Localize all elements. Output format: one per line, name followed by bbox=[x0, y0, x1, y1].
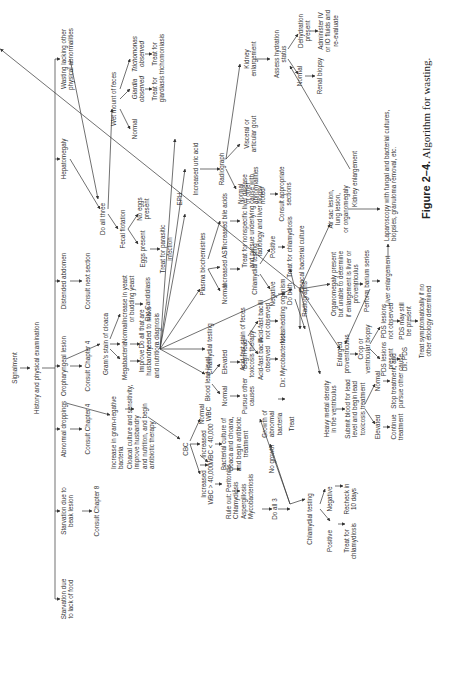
node-history: History and physical examination bbox=[33, 322, 40, 414]
node-eph: EPH bbox=[176, 193, 183, 206]
node-growth-abnormal: Growth of abnormal bacteria bbox=[261, 410, 283, 437]
node-lead-elevated: Elevated bbox=[374, 415, 381, 440]
node-wet-mount: Wet mount of feces bbox=[110, 72, 117, 126]
node-dx-pds: Dx: PDS bbox=[401, 347, 408, 371]
node-megabacteria: Megabacteria bbox=[121, 342, 128, 380]
node-rule-out: Rule out: Peritonitis Chlamydiosis Asper… bbox=[225, 464, 255, 519]
node-gram-stain: Gram's stain of cloaca bbox=[102, 313, 109, 375]
node-enlarged-prov: Enlarged proventriculus bbox=[336, 334, 351, 373]
node-radiograph-top: Radiograph bbox=[218, 153, 225, 186]
node-wbc-gt: Increased WBC > 40,000 bbox=[200, 463, 215, 504]
node-wbc-lt: Increased WBC < 40,000 bbox=[200, 423, 215, 464]
node-bl-normal: Normal bbox=[221, 386, 228, 406]
node-increased-uric: Increased uric acid bbox=[192, 143, 199, 196]
node-liver-enl: Liver enlargement bbox=[384, 256, 391, 306]
node-wbc-normal: Normal WBC bbox=[198, 404, 213, 424]
node-acid-fast: Acid-fast stain of feces bbox=[239, 307, 246, 370]
node-treat-symp: Treat symptomatically if no other etiolo… bbox=[418, 284, 433, 359]
node-laparoscopy: Laparoscopy with fungal and bacterial cu… bbox=[383, 110, 398, 241]
node-wm-normal: Normal bbox=[131, 119, 138, 139]
node-gram-normal: Normal bbox=[121, 323, 128, 343]
node-afb-observed: Acid-fast bacilli observed bbox=[257, 338, 272, 380]
node-treat-chlam-ast: Treat for chlamydiosis bbox=[286, 216, 293, 277]
node-continue-tx: Continue treatment bbox=[390, 414, 405, 441]
node-giardia: Giardia observed bbox=[131, 76, 146, 102]
node-treat-chlam-low: Treat for chlamydiosis bbox=[343, 523, 358, 559]
node-heavy-metal: Heavy metal density in the ventriculus bbox=[323, 381, 338, 438]
node-positive-low: Positive bbox=[326, 530, 333, 552]
node-renal-biopsy: Renal biopsy bbox=[316, 58, 323, 94]
node-increased-bile: Increased bile acids bbox=[221, 193, 228, 249]
node-assess-hydration: Assess hydration status bbox=[273, 30, 288, 78]
figure-title: Algorithm for wasting. bbox=[420, 58, 432, 159]
node-gram-neg: Increase in gram-negative bacteria bbox=[110, 396, 125, 469]
node-pds-still: PDS may still be present bbox=[398, 302, 413, 339]
node-treat-giardia: Treat for giardiasis bbox=[151, 76, 166, 103]
node-chlam-test-mid: Chlamydial testing bbox=[206, 323, 213, 374]
node-plasma-biochem: Plasma biochemistries bbox=[199, 233, 206, 296]
node-do-all-three: Do all three bbox=[99, 203, 106, 235]
node-chlam-test-low: Chlamydial testing bbox=[306, 493, 313, 544]
node-signalment: Signalment bbox=[11, 352, 18, 384]
node-do-both: Do both bbox=[286, 283, 293, 305]
node-wasting-other: Wasting lacking other physical abnormali… bbox=[60, 28, 75, 90]
node-no-growth: No growth bbox=[268, 445, 275, 474]
node-consult-sections: Consult appropriate sections bbox=[278, 167, 293, 222]
node-barium: Perform barium series bbox=[363, 250, 370, 312]
node-cbc: CBC bbox=[182, 442, 189, 455]
node-fecal-flotation: Fecal flotation bbox=[119, 209, 126, 248]
node-pursue-other: Pursue other causes bbox=[241, 378, 256, 414]
node-eggs: Eggs present bbox=[139, 230, 146, 267]
node-trichomonas: Trichomonas observed bbox=[131, 36, 146, 72]
node-do-all-3: Do all 3 bbox=[271, 498, 278, 519]
node-dehydration: Dehydration present bbox=[297, 14, 312, 48]
node-pds-present: PDS lesions present bbox=[380, 342, 395, 376]
node-increased-ast: Increased AST bbox=[221, 246, 228, 287]
node-treat-tricho: Treat for trichomoniasis bbox=[151, 34, 166, 74]
node-consult-ch4-a: Consult Chapter 4 bbox=[84, 404, 91, 455]
node-hepatomegaly: Hepatomegaly bbox=[60, 139, 67, 180]
node-crop-biopsy: Crop or ventricular biopsy bbox=[357, 325, 372, 374]
node-organomegaly: Organomegaly present but unable to deter… bbox=[330, 251, 360, 318]
node-recheck: Recheck in 10 days bbox=[343, 483, 358, 514]
node-oropharyngeal: Oropharyngeal lesion bbox=[60, 336, 67, 396]
node-pds-not: PDS lesions not observed bbox=[380, 303, 395, 339]
node-negative-ast: Negative bbox=[269, 282, 276, 307]
node-no-eggs: No eggs present bbox=[136, 197, 151, 220]
node-abnormal-droppings: Abnormal droppings bbox=[60, 401, 67, 457]
node-rad-normal: Normal or other abnormalities noted bbox=[237, 167, 267, 204]
node-starvation-beak: Starvation due to beak lesion bbox=[60, 487, 75, 535]
figure-label: Figure 2–4. bbox=[420, 161, 432, 219]
node-positive-ast: Positive bbox=[269, 236, 276, 258]
node-starvation-food: Starvation due to lack of food bbox=[60, 579, 75, 620]
node-distended: Distended abdomen bbox=[60, 253, 67, 309]
node-bact-culture: Bacterial culture of cloaca and choana, … bbox=[220, 417, 250, 472]
node-consult-ch4-b: Consult Chapter 4 bbox=[84, 341, 91, 392]
node-kidney-bottom: Kidney enlargement bbox=[351, 151, 358, 207]
node-kidney-top: Kidney enlargement bbox=[243, 41, 258, 76]
node-hyd-normal: Normal bbox=[296, 66, 303, 86]
node-treat-parasitic: Treat for parasitic infection bbox=[159, 225, 174, 274]
node-candidiasis: Dx: Candidiasis bbox=[144, 277, 151, 321]
node-yeast: Increase in yeast or budding yeast bbox=[121, 275, 136, 323]
node-cloacal-sens: Cloacal culture and sensitivity, improve… bbox=[126, 385, 156, 469]
node-treat: Treat bbox=[288, 417, 295, 431]
wasting-algorithm-flowchart: Signalment History and physical examinat… bbox=[0, 0, 456, 699]
node-negative-low: Negative bbox=[326, 487, 333, 512]
node-visceral-gout: Visceral or articular gout bbox=[243, 116, 258, 152]
node-admin-fluids: Administer IV or IO fluids and re-evalua… bbox=[317, 10, 339, 53]
node-bl-elevated: Elevated bbox=[221, 350, 228, 375]
node-submit-blood: Submit blood for lead level and begin le… bbox=[344, 379, 366, 439]
figure-caption: Figure 2–4. Algorithm for wasting. bbox=[420, 58, 432, 219]
node-radiographs: Radiographs bbox=[301, 281, 308, 317]
node-next-section: Consult next section bbox=[84, 253, 91, 310]
node-air-sac: Air sac lesion, lung lesion, or organome… bbox=[327, 185, 349, 232]
node-consult-ch8: Consult Chapter 8 bbox=[93, 486, 100, 537]
